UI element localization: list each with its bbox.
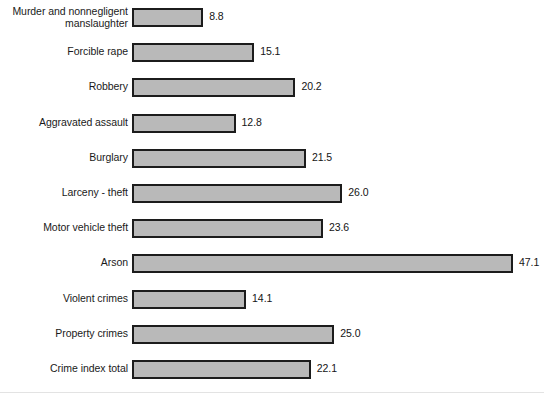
bar-row: Arson47.1 xyxy=(0,252,544,276)
category-label: Aggravated assault xyxy=(2,117,128,129)
bar-row: Motor vehicle theft23.6 xyxy=(0,217,544,241)
category-label: Larceny - theft xyxy=(2,187,128,199)
bar-value-label: 14.1 xyxy=(252,292,272,304)
bar[interactable] xyxy=(132,8,203,27)
bar-row: Burglary21.5 xyxy=(0,147,544,171)
bar-row: Larceny - theft26.0 xyxy=(0,182,544,206)
bar-value-label: 15.1 xyxy=(260,45,280,57)
bar[interactable] xyxy=(132,114,236,133)
bar-value-label: 22.1 xyxy=(317,362,337,374)
bar-value-label: 23.6 xyxy=(329,221,349,233)
bar-value-label: 21.5 xyxy=(312,151,332,163)
plot-area: Murder and nonnegligent manslaughter8.8F… xyxy=(0,0,544,402)
bar-value-label: 26.0 xyxy=(348,186,368,198)
category-label: Murder and nonnegligent manslaughter xyxy=(2,6,128,30)
category-label: Arson xyxy=(2,257,128,269)
bar-row: Property crimes25.0 xyxy=(0,323,544,347)
bar-row: Forcible rape15.1 xyxy=(0,41,544,65)
bar-row: Aggravated assault12.8 xyxy=(0,112,544,136)
bar-value-label: 12.8 xyxy=(242,116,262,128)
bar[interactable] xyxy=(132,219,323,238)
bar-value-label: 8.8 xyxy=(209,10,223,22)
bar-value-label: 20.2 xyxy=(301,80,321,92)
bar-row: Robbery20.2 xyxy=(0,76,544,100)
category-label: Violent crimes xyxy=(2,293,128,305)
category-label: Burglary xyxy=(2,152,128,164)
bar-row: Crime index total22.1 xyxy=(0,358,544,382)
category-label: Forcible rape xyxy=(2,46,128,58)
category-label: Motor vehicle theft xyxy=(2,222,128,234)
bar-value-label: 25.0 xyxy=(340,327,360,339)
bar-value-label: 47.1 xyxy=(519,256,539,268)
bar[interactable] xyxy=(132,290,246,309)
bar-row: Murder and nonnegligent manslaughter8.8 xyxy=(0,6,544,30)
category-label: Property crimes xyxy=(2,328,128,340)
bottom-rule xyxy=(0,392,544,393)
bar[interactable] xyxy=(132,184,342,203)
bar-row: Violent crimes14.1 xyxy=(0,288,544,312)
bar[interactable] xyxy=(132,78,295,97)
bar[interactable] xyxy=(132,43,254,62)
category-label: Crime index total xyxy=(2,363,128,375)
bar[interactable] xyxy=(132,360,311,379)
bar[interactable] xyxy=(132,149,306,168)
bar-chart: Murder and nonnegligent manslaughter8.8F… xyxy=(0,0,544,402)
bar[interactable] xyxy=(132,254,513,273)
bar[interactable] xyxy=(132,325,334,344)
category-label: Robbery xyxy=(2,81,128,93)
